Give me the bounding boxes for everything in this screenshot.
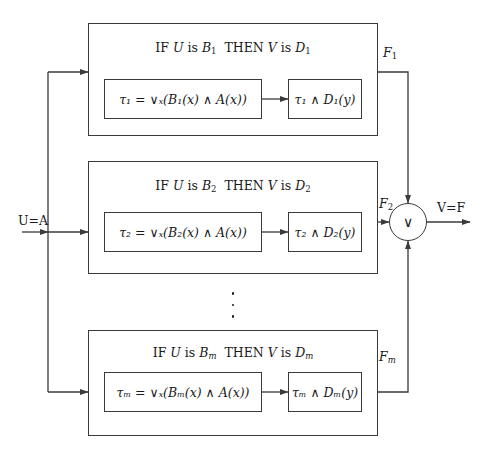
rule-m-out-F: F	[379, 349, 388, 364]
rule-2-consequent-var: V	[268, 178, 277, 193]
rule-m-antecedent-var: U	[170, 345, 181, 360]
rule-2-antecedent-set: B	[202, 178, 211, 193]
rule-1-consequent-var: V	[268, 40, 277, 55]
rule-1-then: THEN	[224, 40, 263, 55]
rule-2-header: IF U is B2 THEN V is D2	[89, 178, 377, 194]
rule-1-out-F: F	[383, 45, 392, 60]
rule-m-is-1: is	[185, 345, 195, 360]
rule-1-is-2: is	[281, 40, 291, 55]
rule-m-consequent-var: V	[268, 345, 277, 360]
rule-1-out-sub: 1	[392, 51, 397, 61]
rule-m-if: IF	[153, 345, 167, 360]
rule-m-output-label: Fm	[379, 349, 396, 365]
rule-2-antecedent-var: U	[173, 178, 184, 193]
rule-2-consequent-sub: 2	[305, 184, 310, 194]
rule-2-then: THEN	[224, 178, 263, 193]
rule-m-firing-box[interactable]: τₘ = ∨ₓ(Bₘ(x) ∧ A(x))	[104, 372, 262, 412]
rule-m-then: THEN	[224, 345, 263, 360]
input-label-text: U=A	[18, 213, 48, 228]
diagram-canvas: IF U is B1 THEN V is D1 τ₁ = ∨ₓ(B₁(x) ∧ …	[0, 0, 487, 451]
input-label: U=A	[18, 213, 48, 228]
output-label: V=F	[437, 200, 465, 215]
rule-m-consequent-sub: m	[305, 351, 313, 361]
rule-1-if: IF	[155, 40, 169, 55]
rule-m-antecedent-sub: m	[208, 351, 216, 361]
rule-2-firing-box[interactable]: τ₂ = ∨ₓ(B₂(x) ∧ A(x))	[104, 212, 262, 252]
rule-2-output-label: F2	[379, 196, 393, 212]
rule-1-is-1: is	[188, 40, 198, 55]
rule-2-output-expr: τ₂ ∧ D₂(y)	[295, 225, 356, 240]
rule-m-consequent-set: D	[295, 345, 305, 360]
rule-2-is-2: is	[281, 178, 291, 193]
rule-m-output-box[interactable]: τₘ ∧ Dₘ(y)	[288, 372, 362, 412]
rule-1-consequent-set: D	[295, 40, 305, 55]
rule-m-out-sub: m	[388, 355, 396, 365]
disjunction-aggregator-node[interactable]: ∨	[389, 203, 427, 241]
rule-1-output-expr: τ₁ ∧ D₁(y)	[295, 92, 356, 107]
rule-m-is-2: is	[281, 345, 291, 360]
rule-m-header: IF U is Bm THEN V is Dm	[89, 345, 377, 361]
rule-2-antecedent-sub: 2	[211, 184, 216, 194]
output-label-text: V=F	[437, 200, 465, 215]
rule-2-consequent-set: D	[295, 178, 305, 193]
rule-1-header: IF U is B1 THEN V is D1	[89, 40, 377, 56]
rule-1-firing-box[interactable]: τ₁ = ∨ₓ(B₁(x) ∧ A(x))	[104, 79, 262, 119]
rule-2-is-1: is	[188, 178, 198, 193]
rule-1-output-box[interactable]: τ₁ ∧ D₁(y)	[288, 79, 362, 119]
rule-1-antecedent-sub: 1	[211, 46, 216, 56]
rule-2-firing-expr: τ₂ = ∨ₓ(B₂(x) ∧ A(x))	[119, 225, 247, 240]
rule-2-if: IF	[155, 178, 169, 193]
vertical-ellipsis-icon	[231, 292, 235, 318]
rule-1-output-label: F1	[383, 45, 397, 61]
rule-m-firing-expr: τₘ = ∨ₓ(Bₘ(x) ∧ A(x))	[117, 385, 250, 400]
or-symbol: ∨	[403, 214, 413, 230]
rule-2-output-box[interactable]: τ₂ ∧ D₂(y)	[288, 212, 362, 252]
rule-1-antecedent-set: B	[202, 40, 211, 55]
rule-1-antecedent-var: U	[173, 40, 184, 55]
rule-2-out-F: F	[379, 196, 388, 211]
rule-1-consequent-sub: 1	[305, 46, 310, 56]
rule-1-firing-expr: τ₁ = ∨ₓ(B₁(x) ∧ A(x))	[119, 92, 247, 107]
rule-m-output-expr: τₘ ∧ Dₘ(y)	[292, 385, 358, 400]
